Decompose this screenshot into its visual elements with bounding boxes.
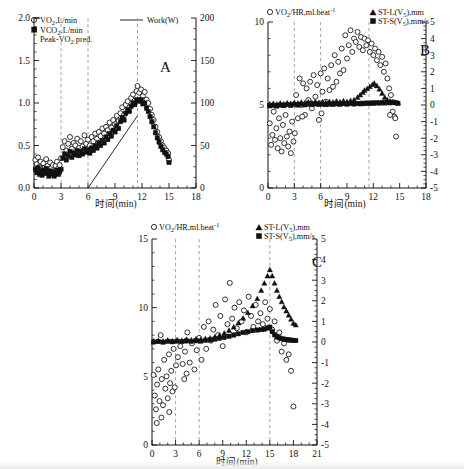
legend-label-work: Work(W): [147, 16, 178, 25]
data-point-filled-square: [116, 126, 120, 130]
data-point-open-circle: [211, 327, 216, 332]
data-point-open-circle: [171, 346, 176, 351]
data-point-open-circle: [256, 319, 261, 324]
data-point-open-circle: [320, 89, 325, 94]
data-point-open-circle: [279, 149, 284, 154]
data-point-open-circle: [291, 139, 296, 144]
data-point-open-circle: [279, 349, 284, 354]
data-point-open-circle: [311, 73, 316, 78]
data-point-open-circle: [167, 410, 172, 415]
panel-a: VO2,L/min VCO2,L/min Peak-VO2 pred. Work…: [0, 0, 232, 210]
x-tick-label: 18: [191, 192, 201, 202]
data-point-filled-square: [166, 339, 170, 343]
panel-letter-b: B: [420, 42, 430, 58]
data-point-filled-square: [213, 337, 217, 341]
data-point-open-circle: [165, 396, 170, 401]
data-point-filled-square: [175, 339, 179, 343]
data-point-filled-square: [150, 120, 154, 124]
y-tick-label-right: -2: [430, 134, 438, 144]
data-point-open-circle: [274, 126, 279, 131]
data-point-open-circle: [159, 415, 164, 420]
y-tick-label-left: 5: [259, 100, 264, 110]
data-point-filled-square: [217, 336, 221, 340]
data-point-open-circle: [329, 63, 334, 68]
x-tick-label: 6: [86, 192, 91, 202]
data-point-filled-square: [294, 338, 298, 342]
y-tick-label-right: 1: [321, 317, 326, 327]
data-point-filled-square: [133, 103, 137, 107]
data-point-open-circle: [301, 81, 306, 86]
data-point-open-circle: [289, 368, 294, 373]
panel-b-chart: VO2/HR,ml.beat-1 ST-L(V5),mm ST-S(V5),mm…: [230, 0, 464, 210]
data-point-filled-square: [157, 140, 161, 144]
y-tick-label-right: 100: [200, 98, 215, 108]
data-point-open-circle: [230, 316, 235, 321]
data-point-open-circle: [378, 63, 383, 68]
data-point-open-circle: [182, 377, 187, 382]
x-tick-label: 0: [266, 192, 271, 202]
panel-b: VO2/HR,ml.beat-1 ST-L(V5),mm ST-S(V5),mm…: [230, 0, 464, 210]
legend-label-peak-vo2-pred: Peak-VO2 pred.: [40, 35, 92, 45]
legend-label-vo2hr: VO2/HR,ml.beat-1: [275, 6, 335, 18]
data-point-filled-square: [167, 160, 171, 164]
data-point-open-circle: [263, 300, 268, 305]
data-point-open-circle: [185, 330, 190, 335]
data-point-open-circle: [168, 381, 173, 386]
y-tick-label-right: 4: [430, 34, 435, 44]
y-tick-label-left: 15: [139, 234, 149, 244]
panel-a-legend: VO2,L/min VCO2,L/min Peak-VO2 pred. Work…: [31, 16, 178, 45]
x-tick-label: 0: [150, 449, 155, 459]
data-point-open-circle: [227, 280, 232, 285]
y-tick-label-left: 0: [143, 440, 148, 450]
data-point-open-circle: [154, 421, 159, 426]
data-point-open-circle: [394, 134, 399, 139]
data-point-filled-square: [396, 101, 400, 105]
data-point-filled-triangle: [222, 331, 227, 336]
data-point-open-circle: [345, 56, 350, 61]
x-tick-label: 3: [173, 449, 178, 459]
y-tick-label-right: 0: [200, 183, 205, 193]
y-tick-label-left: 10: [139, 303, 149, 313]
data-point-open-circle: [246, 294, 251, 299]
y-tick-label-right: 5: [430, 17, 435, 27]
filled-square-icon: [256, 234, 261, 239]
data-point-open-circle: [187, 360, 192, 365]
data-point-filled-square: [227, 334, 231, 338]
data-point-open-circle: [152, 393, 157, 398]
y-tick-label-right: 150: [200, 56, 215, 66]
legend-label-st-s: ST-S(V5),mm/s: [264, 232, 315, 242]
data-point-filled-triangle: [241, 316, 246, 321]
data-point-filled-triangle: [277, 294, 282, 299]
y-tick-label-left: 5: [143, 372, 148, 382]
data-point-filled-triangle: [279, 299, 284, 304]
x-tick-label: 15: [164, 192, 174, 202]
data-point-open-circle: [288, 151, 293, 156]
y-tick-label-right: -3: [321, 399, 329, 409]
data-point-open-circle: [388, 93, 393, 98]
legend-label-vo2hr: VO2/HR,ml.beat-1: [159, 221, 219, 233]
y-tick-label-right: 200: [200, 13, 215, 23]
data-point-open-circle: [180, 361, 185, 366]
data-point-open-circle: [353, 39, 358, 44]
data-point-open-circle: [374, 58, 379, 63]
x-tick-label: 6: [318, 192, 323, 202]
data-point-open-circle: [225, 322, 230, 327]
data-point-open-circle: [297, 76, 302, 81]
figure-container: VO2,L/min VCO2,L/min Peak-VO2 pred. Work…: [0, 0, 464, 469]
data-point-open-circle: [201, 324, 206, 329]
data-point-filled-square: [180, 339, 184, 343]
data-point-filled-square: [161, 340, 165, 344]
y-tick-label-right: 3: [321, 276, 326, 286]
y-tick-label-left: 0.0: [18, 183, 30, 193]
x-tick-label: 15: [395, 192, 405, 202]
data-point-filled-square: [146, 109, 150, 113]
y-tick-label-right: -1: [430, 117, 438, 127]
data-point-open-circle: [271, 109, 276, 114]
y-tick-label-right: -4: [321, 420, 329, 430]
data-point-open-circle: [286, 144, 291, 149]
panel-a-chart: VO2,L/min VCO2,L/min Peak-VO2 pred. Work…: [0, 0, 232, 210]
data-point-open-circle: [220, 344, 225, 349]
data-point-open-circle: [316, 117, 321, 122]
data-point-open-circle: [304, 86, 309, 91]
data-point-filled-triangle: [265, 273, 270, 278]
